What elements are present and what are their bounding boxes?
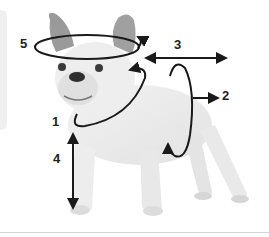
label-5-head: 5 [20,37,27,50]
label-2-chest: 2 [222,89,229,102]
label-1-neck: 1 [52,115,59,128]
bottom-divider [0,232,269,233]
dog-photo [49,13,249,216]
label-4-height: 4 [53,152,60,165]
label-3-back-length: 3 [174,38,181,51]
dog-measurement-diagram [0,0,269,237]
